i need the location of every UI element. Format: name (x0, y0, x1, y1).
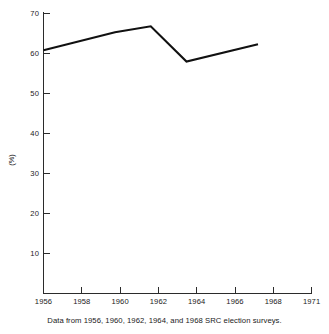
y-tick-label-30: 30 (30, 169, 39, 178)
y-tick-label-20: 20 (30, 209, 39, 218)
x-tick-label-1960: 1960 (111, 297, 128, 306)
y-tick-label-40: 40 (30, 129, 39, 138)
x-tick-label-1956: 1956 (35, 297, 52, 306)
y-tick-label-50: 50 (30, 89, 39, 98)
data-series-line (44, 26, 258, 61)
y-axis-title: (%) (7, 154, 16, 166)
line-chart-plot: 10 20 30 40 50 60 70 (%) 1956 1958 1960 … (0, 0, 329, 334)
chart-figure: 10 20 30 40 50 60 70 (%) 1956 1958 1960 … (0, 0, 329, 334)
y-tick-label-10: 10 (30, 249, 39, 258)
chart-caption: Data from 1956, 1960, 1962, 1964, and 19… (0, 316, 329, 325)
y-tick-label-70: 70 (30, 9, 39, 18)
x-tick-label-1964: 1964 (188, 297, 205, 306)
x-tick-label-1962: 1962 (150, 297, 167, 306)
y-tick-label-60: 60 (30, 49, 39, 58)
x-tick-label-1966: 1966 (226, 297, 243, 306)
x-tick-label-1958: 1958 (73, 297, 90, 306)
x-tick-label-1971: 1971 (303, 297, 320, 306)
x-axis-ticks (44, 287, 312, 294)
x-tick-label-1968: 1968 (265, 297, 282, 306)
